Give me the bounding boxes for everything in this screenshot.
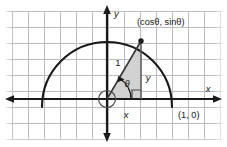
point-coordinates-label: (cosθ, sinθ) <box>137 17 185 27</box>
figure-canvas: x y (cosθ, sinθ) (1, 0) 1 y x θ <box>0 0 227 147</box>
hypotenuse-length-label: 1 <box>115 57 120 68</box>
grid-fade-vertical <box>0 0 227 147</box>
angle-theta-label: θ <box>124 78 130 89</box>
point-on-circle-marker <box>138 38 143 43</box>
x-intercept-label: (1, 0) <box>178 110 199 120</box>
unit-circle-figure: x y (cosθ, sinθ) (1, 0) 1 y x θ <box>0 0 227 147</box>
